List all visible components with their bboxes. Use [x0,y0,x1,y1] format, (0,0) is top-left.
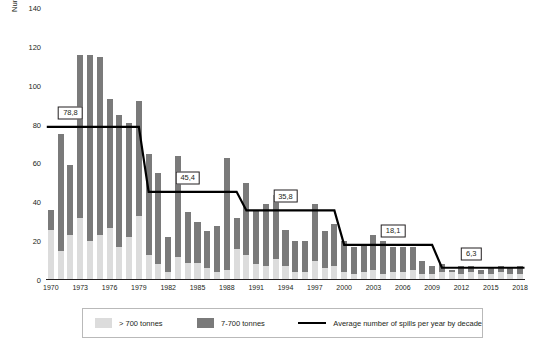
average-callout-1970: 78,8 [58,106,83,119]
x-axis-tick-2012: 2012 [454,284,470,291]
average-callout-2000: 18,1 [381,224,406,237]
x-axis-tick-1982: 1982 [160,284,176,291]
y-axis-tick-80: 80 [33,120,41,129]
legend-item-gt700: > 700 tonnes [95,318,163,328]
legend-label-average: Average number of spills per year by dec… [333,319,482,328]
x-axis-tick-2015: 2015 [483,284,499,291]
x-axis-ticks: 1970197319761979198219851988199119941997… [46,280,525,298]
x-axis-tick-1994: 1994 [278,284,294,291]
dark-gray-swatch-icon [197,318,214,328]
legend-item-average: Average number of spills per year by dec… [298,319,482,328]
x-axis-tick-1976: 1976 [102,284,118,291]
x-axis-tick-1991: 1991 [248,284,264,291]
average-line [46,8,525,280]
x-axis-tick-1973: 1973 [72,284,88,291]
y-axis-tick-40: 40 [33,198,41,207]
chart-legend: > 700 tonnes 7-700 tonnes Average number… [82,308,483,338]
plot-area: Number of spills 020406080100120140 78,8… [46,8,525,280]
black-line-swatch-icon [298,322,326,325]
y-axis-tick-0: 0 [37,276,41,285]
average-callout-1980: 45,4 [175,171,200,184]
x-axis-tick-1985: 1985 [190,284,206,291]
legend-item-7-700: 7-700 tonnes [197,318,265,328]
average-callout-1990: 35,8 [273,190,298,203]
chart-figure: Number of spills 020406080100120140 78,8… [0,0,537,353]
y-axis-title: Number of spills [10,0,19,64]
legend-label-gt700: > 700 tonnes [119,319,163,328]
x-axis-tick-1997: 1997 [307,284,323,291]
legend-label-7-700: 7-700 tonnes [221,319,265,328]
x-axis-tick-1988: 1988 [219,284,235,291]
x-axis-tick-1979: 1979 [131,284,147,291]
y-axis-tick-120: 120 [28,42,41,51]
x-axis-tick-2000: 2000 [336,284,352,291]
x-axis-tick-2006: 2006 [395,284,411,291]
light-gray-swatch-icon [95,318,112,328]
y-axis-tick-60: 60 [33,159,41,168]
average-callout-2010: 6,3 [461,247,481,260]
y-axis-tick-100: 100 [28,81,41,90]
x-axis-tick-2009: 2009 [424,284,440,291]
x-axis-tick-2018: 2018 [512,284,528,291]
x-axis-tick-2003: 2003 [366,284,382,291]
x-axis-tick-1970: 1970 [43,284,59,291]
y-axis-tick-140: 140 [28,4,41,13]
y-axis-tick-20: 20 [33,237,41,246]
